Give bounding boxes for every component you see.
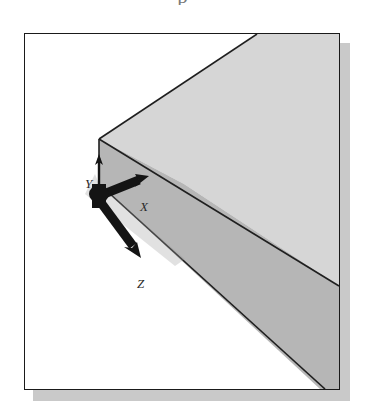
figure-frame: Y X Z: [24, 33, 340, 390]
axis-label-y: Y: [85, 177, 92, 190]
figure-root: p: [0, 0, 365, 415]
triad-origin-stem: [92, 184, 106, 208]
scanned-text-remnant: p: [0, 0, 365, 5]
isometric-block-drawing: [25, 34, 339, 389]
axis-label-z: Z: [137, 277, 144, 290]
axis-label-x: X: [140, 200, 148, 213]
